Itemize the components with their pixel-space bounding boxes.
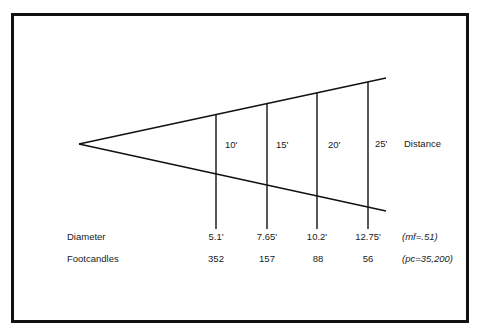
diameter-note: (mf=.51): [402, 232, 438, 242]
diameter-value: 5.1': [208, 232, 223, 242]
footcandles-value: 157: [259, 254, 275, 264]
row-label-footcandles: Footcandles: [67, 254, 119, 264]
diameter-value: 7.65': [257, 232, 277, 242]
footcandles-value: 88: [313, 254, 324, 264]
beam-lower-edge: [79, 144, 386, 211]
diameter-value: 10.2': [307, 232, 327, 242]
diameter-value: 12.75': [355, 232, 381, 242]
distance-label-15: 15': [276, 140, 288, 150]
beam-upper-edge: [79, 78, 386, 144]
beam-diagram: [0, 0, 478, 328]
footcandles-value: 352: [208, 254, 224, 264]
footcandles-note: (pc=35,200): [402, 254, 453, 264]
distance-label-10: 10': [225, 140, 237, 150]
distance-label-25: 25': [375, 139, 387, 149]
row-label-diameter: Diameter: [67, 232, 106, 242]
distance-axis-label: Distance: [404, 139, 441, 149]
footcandles-value: 56: [363, 254, 374, 264]
distance-label-20: 20': [328, 140, 340, 150]
